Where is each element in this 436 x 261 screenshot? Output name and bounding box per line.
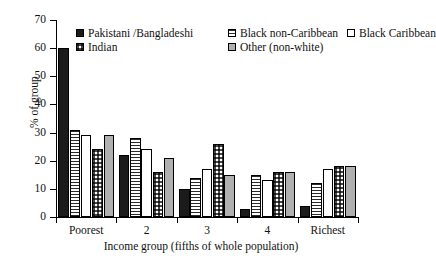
legend-label: Pakistani /Bangladeshi [88, 26, 193, 40]
bar [104, 135, 115, 217]
bar [119, 155, 130, 217]
bar [190, 178, 201, 217]
x-axis-title: Income group (fifths of whole population… [0, 240, 402, 252]
x-tick [298, 217, 299, 223]
bar [323, 169, 334, 217]
solid-black-swatch-icon [76, 29, 84, 37]
horizontal-stripes-swatch-icon [228, 29, 236, 37]
x-tick-label: Richest [293, 224, 363, 236]
bar [300, 206, 311, 217]
checkerboard-swatch-icon [76, 43, 84, 51]
bar [224, 175, 235, 217]
bar [58, 48, 69, 217]
white-swatch-icon [347, 29, 355, 37]
bar [311, 183, 322, 217]
legend-label: Black Caribbean [359, 26, 436, 40]
x-tick [177, 217, 178, 223]
chart-legend: Pakistani /Bangladeshi Black non-Caribbe… [76, 26, 436, 54]
bar [251, 175, 262, 217]
bar [262, 180, 273, 217]
legend-item-pakistani-bangladeshi: Pakistani /Bangladeshi [76, 26, 228, 40]
bar [202, 169, 213, 217]
bar [179, 189, 190, 217]
x-tick [237, 217, 238, 223]
legend-item-other-non-white: Other (non-white) [228, 40, 323, 54]
bar [153, 172, 164, 217]
bar [345, 166, 356, 217]
y-tick-label: 70 [16, 14, 46, 26]
legend-item-black-non-caribbean: Black non-Caribbean [228, 26, 347, 40]
bar [164, 158, 175, 217]
legend-row-1: Pakistani /Bangladeshi Black non-Caribbe… [76, 26, 436, 40]
y-tick-label: 10 [16, 183, 46, 195]
bar [141, 149, 152, 217]
bar [92, 149, 103, 217]
legend-label: Other (non-white) [240, 40, 323, 54]
legend-label: Indian [88, 40, 117, 54]
bar [213, 144, 224, 217]
x-tick [358, 217, 359, 223]
bar [81, 135, 92, 217]
bar [70, 130, 81, 217]
legend-item-indian: Indian [76, 40, 228, 54]
x-tick [116, 217, 117, 223]
x-axis-line [56, 217, 359, 218]
y-axis-title: % of group [28, 42, 40, 162]
y-tick-label: 0 [16, 211, 46, 223]
solid-gray-swatch-icon [228, 43, 236, 51]
bar [130, 138, 141, 217]
legend-label: Black non-Caribbean [240, 26, 338, 40]
legend-item-black-caribbean: Black Caribbean [347, 26, 436, 40]
bar [273, 172, 284, 217]
bar [240, 209, 251, 217]
x-tick [56, 217, 57, 223]
bar [285, 172, 296, 217]
legend-row-2: Indian Other (non-white) [76, 40, 436, 54]
bar [334, 166, 345, 217]
